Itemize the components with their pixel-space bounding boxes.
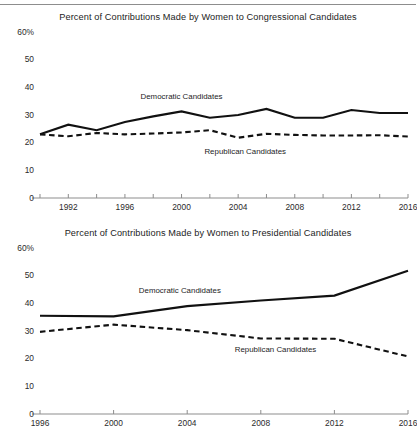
x-tick-label: 2012: [342, 203, 361, 211]
x-tick-label: 2016: [399, 203, 417, 211]
x-tick-label: 2004: [229, 203, 248, 211]
series-line-republican-candidates: [40, 325, 408, 357]
x-tick-label: 2000: [104, 419, 123, 427]
x-tick-label: 1992: [59, 203, 78, 211]
series-line-republican-candidates: [40, 130, 408, 137]
plot-area-congressional: 60%50403020100 1992199620002004200820122…: [0, 26, 416, 216]
series-annotation-democratic-candidates: Democratic Candidates: [139, 287, 221, 295]
series-annotation-republican-candidates: Republican Candidates: [235, 346, 317, 354]
header-rule: [0, 4, 416, 5]
series-line-democratic-candidates: [40, 109, 408, 134]
chart-panel-presidential: Percent of Contributions Made by Women t…: [0, 226, 416, 438]
chart-title-presidential: Percent of Contributions Made by Women t…: [0, 228, 416, 238]
plot-area-presidential: 60%50403020100 199620002004200820122016 …: [0, 242, 416, 432]
plot-svg-presidential: [0, 242, 416, 432]
series-line-democratic-candidates: [40, 271, 408, 317]
series-annotation-republican-candidates: Republican Candidates: [204, 148, 286, 156]
x-axis-labels-congressional: 1992199620002004200820122016: [0, 203, 416, 217]
x-axis-labels-presidential: 199620002004200820122016: [0, 419, 416, 433]
plot-svg-congressional: [0, 26, 416, 216]
chart-title-congressional: Percent of Contributions Made by Women t…: [0, 12, 416, 22]
x-tick-label: 1996: [31, 419, 50, 427]
x-tick-label: 2004: [178, 419, 197, 427]
x-tick-label: 2012: [325, 419, 344, 427]
x-tick-label: 1996: [116, 203, 135, 211]
x-tick-label: 2008: [251, 419, 270, 427]
series-annotation-democratic-candidates: Democratic Candidates: [141, 93, 223, 101]
x-tick-label: 2016: [399, 419, 417, 427]
chart-panel-congressional: Percent of Contributions Made by Women t…: [0, 10, 416, 220]
x-tick-label: 2000: [172, 203, 191, 211]
x-tick-label: 2008: [285, 203, 304, 211]
